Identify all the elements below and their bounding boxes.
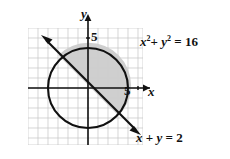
line-eq-x: x: [136, 130, 143, 145]
figure-page: .: [0, 0, 230, 159]
line-eq-equals: =: [165, 130, 172, 145]
x-axis-tick-label-5: 5: [124, 83, 131, 99]
coordinate-graph: [0, 0, 230, 159]
line-eq-rhs: 2: [176, 130, 183, 145]
circle-equation-label: x2+ y2 = 16: [140, 34, 198, 50]
x-axis-label: x: [148, 84, 155, 100]
circle-eq-plus: +: [151, 34, 158, 49]
line-eq-y: y: [156, 130, 162, 145]
circle-eq-rhs: 16: [185, 34, 198, 49]
circle-eq-equals: =: [174, 34, 181, 49]
y-axis-label: y: [81, 6, 87, 22]
line-equation-label: x + y = 2: [136, 130, 183, 146]
line-eq-plus: +: [146, 130, 153, 145]
circle-eq-y-exponent: 2: [167, 34, 171, 43]
y-axis-tick-label-5: 5: [91, 29, 98, 45]
